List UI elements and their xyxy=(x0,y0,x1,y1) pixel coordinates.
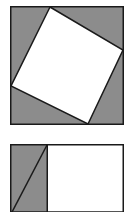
figure-split-square xyxy=(0,0,134,212)
figure-canvas xyxy=(0,0,134,212)
